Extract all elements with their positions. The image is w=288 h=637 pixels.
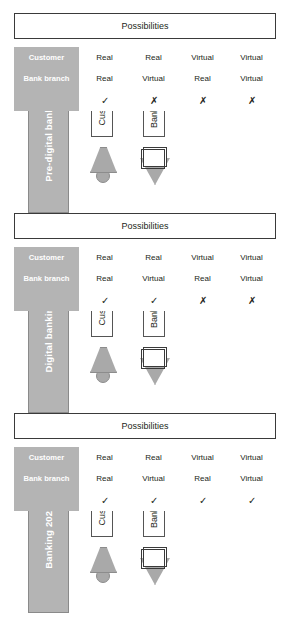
matrix-cell-branch: Real [178,268,227,289]
matrix-cell-customer: Real [80,247,129,268]
scenario-panel-banking-2020: Banking 2020 Customer Bank branch [0,429,288,629]
matrix-cell-customer: Real [129,47,178,68]
bank-branch-icon [138,545,172,585]
matrix-column-customer: Customer Real Real Virtual Virtual [14,47,276,68]
possibilities-label: Possibilities [121,21,168,31]
matrix-header-bank-branch: Bank branch [14,268,80,289]
matrix-cell-mark: ✓ [129,489,178,511]
matrix-header-mark [14,489,80,511]
matrix-column-bank-branch: Bank branch Real Virtual Real Virtual [14,468,276,489]
matrix-cell-customer: Virtual [178,47,227,68]
bank-branch-square-shape [143,147,167,167]
scenario-panel-digital-banking: Digital banking Customer Bank branch [0,229,288,429]
matrix-cell-branch: Virtual [129,468,178,489]
matrix-column-customer: Customer Real Real Virtual Virtual [14,447,276,468]
matrix-cell-branch: Real [178,468,227,489]
scenario-banner-label: Digital banking [43,301,54,372]
matrix-cell-mark: ✗ [227,89,276,111]
matrix-cell-mark: ✗ [178,289,227,311]
possibility-matrix: ✓ ✓ ✓ ✓ Bank branch Real Virtual Real Vi… [14,447,276,511]
matrix-cell-branch: Virtual [227,268,276,289]
matrix-cell-mark: ✓ [129,289,178,311]
matrix-cell-mark: ✗ [129,89,178,111]
matrix-cell-mark: ✓ [80,289,129,311]
matrix-cell-branch: Real [80,68,129,89]
scenario-panel-pre-digital-banking: Pre-digital banking Customer Bank branch [0,29,288,229]
matrix-cell-customer: Real [129,247,178,268]
matrix-cell-customer: Real [80,447,129,468]
matrix-cell-branch: Virtual [227,68,276,89]
matrix-header-bank-branch: Bank branch [14,68,80,89]
matrix-column-mark: ✓ ✓ ✗ ✗ [14,289,276,311]
matrix-column-customer: Customer Real Real Virtual Virtual [14,247,276,268]
matrix-cell-customer: Real [129,447,178,468]
person-body-shape [90,147,117,173]
matrix-header-customer: Customer [14,47,80,68]
matrix-cell-mark: ✗ [178,89,227,111]
matrix-cell-branch: Virtual [129,268,178,289]
matrix-header-customer: Customer [14,447,80,468]
scenario-banner-label: Banking 2020 [43,505,54,569]
person-icon [86,545,120,585]
matrix-cell-branch: Virtual [129,68,178,89]
bank-branch-icon [138,145,172,185]
possibilities-box: Possibilities [14,13,276,39]
possibility-matrix: ✓ ✓ ✗ ✗ Bank branch Real Virtual Real Vi… [14,247,276,311]
bank-branch-square-shape [143,547,167,567]
matrix-header-mark [14,289,80,311]
matrix-cell-mark: ✗ [227,289,276,311]
matrix-cell-branch: Real [178,68,227,89]
matrix-cell-branch: Real [80,468,129,489]
matrix-cell-mark: ✓ [227,489,276,511]
matrix-cell-mark: ✓ [80,89,129,111]
matrix-column-bank-branch: Bank branch Real Virtual Real Virtual [14,268,276,289]
diagram-canvas: Banking 2020 Customer Bank branch [0,0,288,637]
matrix-cell-branch: Virtual [227,468,276,489]
matrix-cell-customer: Virtual [227,47,276,68]
matrix-header-bank-branch: Bank branch [14,468,80,489]
matrix-cell-mark: ✓ [80,489,129,511]
matrix-cell-customer: Virtual [178,247,227,268]
person-body-shape [90,547,117,573]
person-icon [86,345,120,385]
matrix-cell-customer: Virtual [227,247,276,268]
matrix-cell-mark: ✓ [178,489,227,511]
matrix-column-bank-branch: Bank branch Real Virtual Real Virtual [14,68,276,89]
bank-branch-square-shape [143,347,167,367]
person-icon [86,145,120,185]
bank-branch-icon [138,345,172,385]
possibility-matrix: ✓ ✗ ✗ ✗ Bank branch Real Virtual Real Vi… [14,47,276,111]
matrix-cell-customer: Virtual [227,447,276,468]
matrix-cell-customer: Virtual [178,447,227,468]
matrix-column-mark: ✓ ✗ ✗ ✗ [14,89,276,111]
matrix-cell-branch: Real [80,268,129,289]
matrix-header-mark [14,89,80,111]
matrix-column-mark: ✓ ✓ ✓ ✓ [14,489,276,511]
matrix-header-customer: Customer [14,247,80,268]
person-body-shape [90,347,117,373]
matrix-cell-customer: Real [80,47,129,68]
